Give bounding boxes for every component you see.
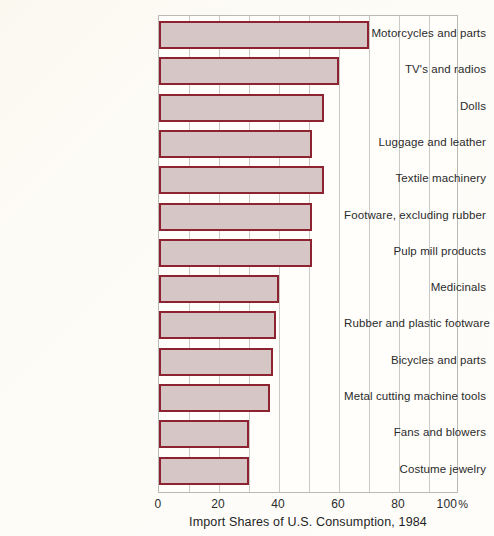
x-tick-label: 60	[331, 497, 345, 511]
bar	[159, 348, 273, 376]
bar	[159, 275, 279, 303]
x-tick-label: 0	[155, 497, 162, 511]
category-label: Fans and blowers	[344, 426, 494, 438]
x-axis-title: Import Shares of U.S. Consumption, 1984	[158, 515, 458, 529]
category-label: Luggage and leather	[344, 136, 494, 148]
bar	[159, 203, 312, 231]
percent-symbol: %	[458, 498, 468, 510]
x-tick-label: 80	[391, 497, 405, 511]
category-label: Textile machinery	[344, 172, 494, 184]
x-tick-label: 100%	[437, 497, 469, 511]
bar	[159, 57, 339, 85]
bar	[159, 384, 270, 412]
bar	[159, 130, 312, 158]
category-label: TV's and radios	[344, 63, 494, 75]
bar	[159, 239, 312, 267]
x-tick-label: 20	[211, 497, 225, 511]
bar	[159, 166, 324, 194]
category-label: Footware, excluding rubber	[344, 209, 494, 221]
category-label: Motorcycles and parts	[344, 27, 494, 39]
bar	[159, 311, 276, 339]
category-label: Metal cutting machine tools	[344, 390, 494, 402]
category-label: Rubber and plastic footware	[344, 317, 494, 329]
category-label: Medicinals	[344, 281, 494, 293]
category-label: Dolls	[344, 100, 494, 112]
bar	[159, 94, 324, 122]
category-label: Bicycles and parts	[344, 354, 494, 366]
x-tick-label: 40	[271, 497, 285, 511]
bar	[159, 21, 369, 49]
chart-container: Motorcycles and partsTV's and radiosDoll…	[0, 0, 494, 536]
bar	[159, 420, 249, 448]
category-label: Pulp mill products	[344, 245, 494, 257]
bar	[159, 457, 249, 485]
category-label: Costume jewelry	[344, 463, 494, 475]
